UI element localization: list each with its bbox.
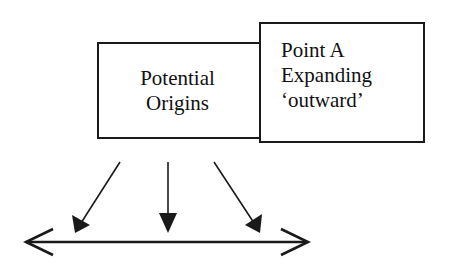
arrow-down-icon	[159, 162, 177, 233]
point-a-box: Point A Expanding ‘outward’	[259, 22, 425, 143]
potential-origins-line-2: Origins	[146, 91, 209, 116]
potential-origins-line-1: Potential	[140, 66, 215, 91]
point-a-line-3: ‘outward’	[281, 88, 423, 113]
point-a-line-1: Point A	[281, 38, 423, 63]
potential-origins-box: Potential Origins	[97, 42, 262, 139]
arrow-down-right-icon	[214, 162, 262, 233]
double-headed-arrow-icon	[26, 229, 308, 255]
point-a-line-2: Expanding	[281, 63, 423, 88]
arrow-down-left-icon	[72, 162, 120, 233]
